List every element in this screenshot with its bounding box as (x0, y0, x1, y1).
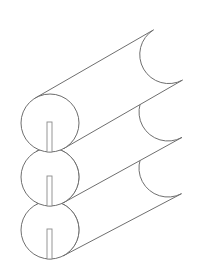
slotted-cylinders-illustration (0, 0, 201, 273)
cylinder-bottom-slot (47, 229, 52, 259)
technical-drawing-canvas (0, 0, 201, 273)
cylinder-top-slot (47, 122, 52, 152)
cylinder-middle-slot (47, 176, 52, 206)
